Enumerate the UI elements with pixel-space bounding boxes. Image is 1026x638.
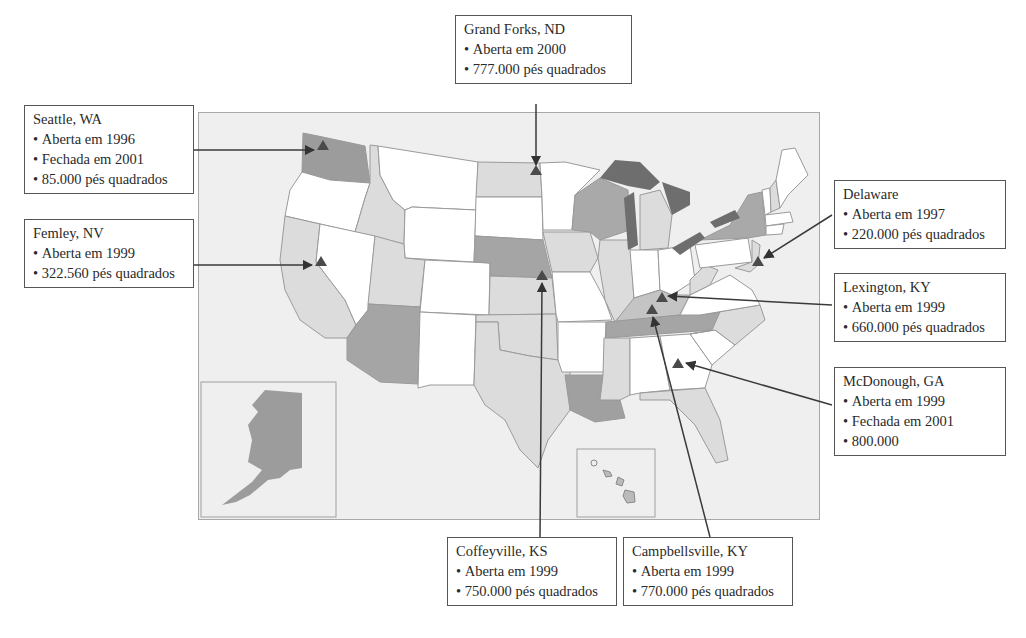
callout-mcdonough: McDonough, GA Aberta em 1999 Fechada em … bbox=[834, 367, 1006, 456]
state-new-mexico bbox=[418, 312, 476, 388]
alaska-inset bbox=[201, 382, 336, 517]
callout-title: Grand Forks, ND bbox=[464, 19, 623, 39]
callout-line: 800.000 bbox=[843, 431, 997, 451]
callout-seattle: Seattle, WA Aberta em 1996 Fechada em 20… bbox=[24, 105, 194, 194]
callout-campbellsville: Campbellsville, KY Aberta em 1999 770.00… bbox=[623, 537, 793, 606]
callout-title: Campbellsville, KY bbox=[632, 541, 784, 561]
state-maine bbox=[776, 148, 808, 208]
callout-line: 220.000 pés quadrados bbox=[843, 224, 997, 244]
callout-grand-forks: Grand Forks, ND Aberta em 2000 777.000 p… bbox=[455, 15, 632, 84]
state-connecticut bbox=[766, 224, 784, 235]
callout-line: 770.000 pés quadrados bbox=[632, 581, 784, 601]
callout-line: Fechada em 2001 bbox=[33, 149, 185, 169]
callout-line: Aberta em 1999 bbox=[843, 297, 997, 317]
callout-lexington: Lexington, KY Aberta em 1999 660.000 pés… bbox=[834, 273, 1006, 342]
callout-line: Aberta em 1999 bbox=[843, 391, 997, 411]
callout-line: 660.000 pés quadrados bbox=[843, 317, 997, 337]
callout-delaware: Delaware Aberta em 1997 220.000 pés quad… bbox=[834, 180, 1006, 249]
callout-line: Aberta em 2000 bbox=[464, 39, 623, 59]
callout-line: Aberta em 1996 bbox=[33, 129, 185, 149]
state-wyoming bbox=[404, 207, 476, 262]
callout-title: Seattle, WA bbox=[33, 109, 185, 129]
state-pennsylvania bbox=[695, 238, 752, 268]
callout-line: Aberta em 1999 bbox=[456, 561, 608, 581]
callout-fernley: Femley, NV Aberta em 1999 322.560 pés qu… bbox=[24, 219, 194, 288]
state-indiana bbox=[630, 250, 660, 298]
state-arkansas bbox=[558, 322, 606, 372]
state-iowa bbox=[543, 232, 598, 272]
callout-line: Aberta em 1997 bbox=[843, 204, 997, 224]
state-montana bbox=[378, 146, 478, 210]
callout-title: Femley, NV bbox=[33, 223, 185, 243]
callout-line: 777.000 pés quadrados bbox=[464, 59, 623, 79]
callout-line: 322.560 pés quadrados bbox=[33, 263, 185, 283]
callout-line: Fechada em 2001 bbox=[843, 411, 997, 431]
state-massachusetts bbox=[765, 212, 793, 226]
contiguous-us bbox=[280, 133, 808, 468]
callout-line: 85.000 pés quadrados bbox=[33, 169, 185, 189]
state-mississippi bbox=[600, 338, 630, 400]
callout-title: Delaware bbox=[843, 184, 997, 204]
hawaii-inset bbox=[577, 449, 655, 517]
state-colorado bbox=[420, 260, 490, 315]
callout-title: Lexington, KY bbox=[843, 277, 997, 297]
state-kansas bbox=[489, 276, 556, 315]
callout-line: Aberta em 1999 bbox=[33, 243, 185, 263]
callout-title: Coffeyville, KS bbox=[456, 541, 608, 561]
state-ohio bbox=[658, 245, 695, 295]
callout-line: Aberta em 1999 bbox=[632, 561, 784, 581]
state-north-dakota bbox=[476, 162, 542, 197]
callout-title: McDonough, GA bbox=[843, 371, 997, 391]
callout-coffeyville: Coffeyville, KS Aberta em 1999 750.000 p… bbox=[447, 537, 617, 606]
state-south-dakota bbox=[475, 197, 543, 240]
callout-line: 750.000 pés quadrados bbox=[456, 581, 608, 601]
